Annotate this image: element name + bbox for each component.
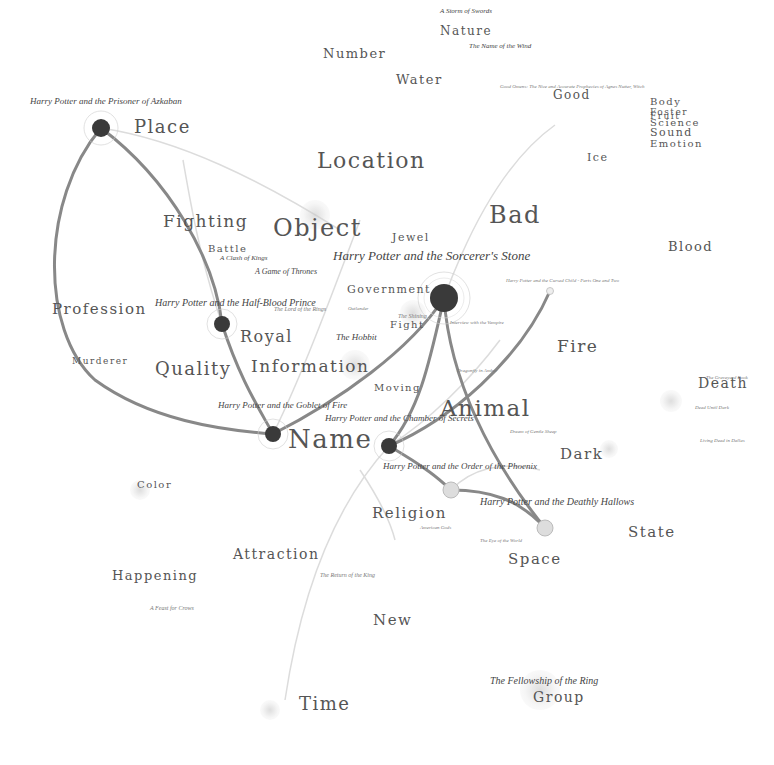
book-label[interactable]: Harry Potter and the Order of the Phoeni… (383, 462, 537, 471)
book-label[interactable]: Living Dead in Dallas (700, 438, 745, 443)
book-label[interactable]: Harry Potter and the Goblet of Fire (218, 401, 347, 410)
book-label[interactable]: Good Omens: The Nice and Accurate Prophe… (500, 84, 644, 89)
book-label[interactable]: A Clash of Kings (220, 255, 268, 262)
book-label[interactable]: A Feast for Crows (150, 605, 194, 611)
book-label[interactable]: Harry Potter and the Sorcerer's Stone (333, 249, 530, 262)
book-label[interactable]: Dragonfly in Amber (457, 368, 497, 373)
network-canvas: NumberNatureWaterGoodPlaceLocationIceBod… (0, 0, 774, 765)
book-label[interactable]: The Return of the King (320, 572, 375, 578)
book-label[interactable]: A Game of Thrones (255, 268, 317, 276)
book-label[interactable]: A Storm of Swords (440, 8, 492, 15)
book-label[interactable]: Dead Until Dark (695, 405, 729, 410)
book-label[interactable]: The Name of the Wind (469, 43, 531, 50)
book-label[interactable]: Harry Potter and the Prisoner of Azkaban (30, 97, 182, 106)
book-label[interactable]: Harry Potter and the Cursed Child - Part… (506, 278, 619, 283)
book-label[interactable]: American Gods (420, 525, 451, 530)
book-label[interactable]: The Shining (398, 313, 427, 319)
book-label[interactable]: Harry Potter and the Deathly Hallows (480, 497, 634, 507)
book-label[interactable]: The Fellowship of the Ring (490, 676, 598, 686)
book-label[interactable]: Outlander (348, 306, 369, 311)
book-label[interactable]: The Graveyard Book (706, 375, 748, 380)
book-label[interactable]: The Eye of the World (480, 538, 522, 543)
book-label[interactable]: Harry Potter and the Chamber of Secrets (325, 414, 474, 423)
book-label[interactable]: Interview with the Vampire (450, 320, 504, 325)
book-label[interactable]: Dream of Gentle Sheep (510, 429, 557, 434)
books-layer: Harry Potter and the Prisoner of Azkaban… (0, 0, 774, 765)
book-label[interactable]: The Lord of the Rings (274, 306, 326, 312)
book-label[interactable]: The Hobbit (336, 333, 377, 342)
